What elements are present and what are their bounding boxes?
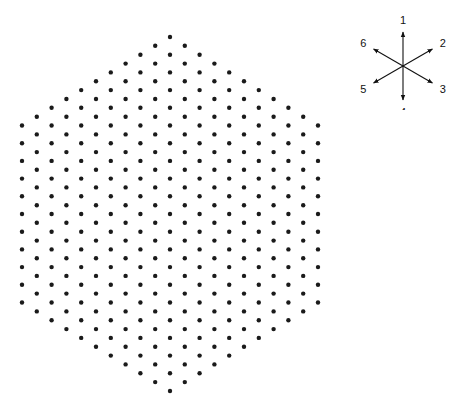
- lattice-dot: [64, 238, 68, 242]
- lattice-dot: [168, 141, 172, 145]
- lattice-dot: [153, 309, 157, 313]
- lattice-dot: [301, 291, 305, 295]
- lattice-dot: [138, 53, 142, 57]
- lattice-dot: [197, 283, 201, 287]
- lattice-dot: [271, 327, 275, 331]
- lattice-dot: [35, 256, 39, 260]
- lattice-dot: [212, 168, 216, 172]
- lattice-dot: [257, 212, 261, 216]
- lattice-dot: [49, 300, 53, 304]
- lattice-dot: [242, 274, 246, 278]
- lattice-dot: [271, 203, 275, 207]
- lattice-dot: [20, 265, 24, 269]
- lattice-dot: [301, 221, 305, 225]
- lattice-dot: [94, 345, 98, 349]
- lattice-dot: [109, 336, 113, 340]
- lattice-dot: [109, 318, 113, 322]
- lattice-dot: [242, 150, 246, 154]
- lattice-dot: [109, 353, 113, 357]
- lattice-dot: [227, 283, 231, 287]
- lattice-dot: [79, 106, 83, 110]
- lattice-dot: [286, 123, 290, 127]
- lattice-dot: [183, 345, 187, 349]
- lattice-dot: [20, 176, 24, 180]
- lattice-dot: [212, 61, 216, 65]
- lattice-dot: [197, 159, 201, 163]
- lattice-dot: [123, 327, 127, 331]
- lattice-dot: [168, 371, 172, 375]
- lattice-dot: [64, 309, 68, 313]
- lattice-dot: [138, 265, 142, 269]
- lattice-dot: [94, 168, 98, 172]
- lattice-dot: [94, 238, 98, 242]
- lattice-dot: [64, 185, 68, 189]
- lattice-dot: [64, 256, 68, 260]
- lattice-dot: [109, 70, 113, 74]
- lattice-dot: [20, 283, 24, 287]
- lattice-dot: [79, 88, 83, 92]
- lattice-dot: [257, 247, 261, 251]
- lattice-dot: [227, 336, 231, 340]
- lattice-dot: [227, 247, 231, 251]
- lattice-dot: [94, 79, 98, 83]
- lattice-dot: [212, 291, 216, 295]
- direction-label-4: 4: [400, 106, 406, 110]
- lattice-dot: [286, 141, 290, 145]
- lattice-dot: [183, 309, 187, 313]
- lattice-dot: [153, 44, 157, 48]
- lattice-dot: [64, 203, 68, 207]
- lattice-dot: [109, 230, 113, 234]
- lattice-dot: [94, 185, 98, 189]
- lattice-dot: [301, 256, 305, 260]
- direction-arrow-2: [403, 49, 432, 66]
- lattice-dot: [153, 203, 157, 207]
- lattice-dot: [109, 141, 113, 145]
- lattice-dot: [153, 61, 157, 65]
- lattice-dot: [212, 345, 216, 349]
- lattice-dot: [49, 194, 53, 198]
- lattice-dot: [271, 238, 275, 242]
- lattice-dot: [183, 256, 187, 260]
- lattice-dot: [49, 123, 53, 127]
- lattice-dot: [242, 79, 246, 83]
- lattice-dot: [153, 345, 157, 349]
- lattice-dot: [183, 238, 187, 242]
- lattice-dot: [197, 88, 201, 92]
- lattice-dot: [271, 168, 275, 172]
- lattice-dot: [35, 150, 39, 154]
- lattice-dot: [109, 265, 113, 269]
- lattice-dot: [183, 380, 187, 384]
- lattice-dot: [79, 141, 83, 145]
- lattice-dot: [123, 79, 127, 83]
- lattice-dot: [242, 238, 246, 242]
- lattice-dot: [79, 194, 83, 198]
- lattice-dot: [212, 274, 216, 278]
- direction-label-6: 6: [360, 37, 366, 49]
- lattice-dot: [168, 353, 172, 357]
- lattice-dot: [212, 362, 216, 366]
- lattice-dot: [227, 141, 231, 145]
- lattice-dot: [271, 185, 275, 189]
- lattice-dot: [35, 309, 39, 313]
- lattice-dot: [257, 88, 261, 92]
- lattice-dot: [257, 159, 261, 163]
- lattice-dot: [64, 274, 68, 278]
- lattice-dot: [183, 97, 187, 101]
- lattice-dot: [242, 256, 246, 260]
- lattice-dot: [153, 79, 157, 83]
- lattice-dot: [49, 265, 53, 269]
- lattice-dot: [257, 283, 261, 287]
- lattice-dot: [153, 256, 157, 260]
- lattice-dot: [123, 256, 127, 260]
- lattice-dot: [197, 176, 201, 180]
- lattice-dot: [301, 238, 305, 242]
- lattice-dot: [94, 274, 98, 278]
- lattice-dot: [153, 132, 157, 136]
- lattice-dot: [197, 106, 201, 110]
- lattice-dot: [94, 97, 98, 101]
- lattice-dot: [94, 256, 98, 260]
- lattice-dot: [138, 88, 142, 92]
- direction-label-3: 3: [440, 83, 446, 95]
- lattice-dot: [79, 247, 83, 251]
- lattice-dot: [168, 300, 172, 304]
